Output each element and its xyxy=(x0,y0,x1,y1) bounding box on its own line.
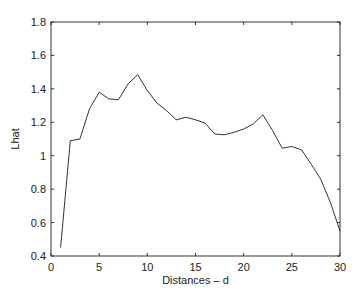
y-tick-label: 1.4 xyxy=(31,83,46,95)
y-tick-label: 0.8 xyxy=(31,183,46,195)
x-tick-label: 30 xyxy=(334,261,346,273)
y-tick-label: 1.6 xyxy=(31,49,46,61)
x-tick-label: 0 xyxy=(48,261,54,273)
y-tick-label: 0.4 xyxy=(31,250,46,262)
x-tick-label: 20 xyxy=(238,261,250,273)
axis-ticks: 0510152025300.40.60.811.21.41.61.8 xyxy=(31,16,346,273)
y-tick-label: 1 xyxy=(40,150,46,162)
x-tick-label: 5 xyxy=(96,261,102,273)
y-tick-label: 1.8 xyxy=(31,16,46,28)
y-tick-label: 0.6 xyxy=(31,217,46,229)
line-chart: 0510152025300.40.60.811.21.41.61.8 Dista… xyxy=(0,0,362,301)
x-tick-label: 10 xyxy=(141,261,153,273)
x-tick-label: 25 xyxy=(286,261,298,273)
y-axis-label: Lhat xyxy=(9,128,21,149)
x-tick-label: 15 xyxy=(189,261,201,273)
x-axis-label: Distances – d xyxy=(162,274,229,286)
y-tick-label: 1.2 xyxy=(31,116,46,128)
lhat-line xyxy=(61,75,340,248)
plot-frame xyxy=(51,22,340,256)
